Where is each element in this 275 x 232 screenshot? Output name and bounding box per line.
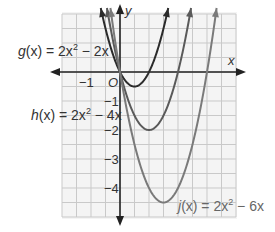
label-h-function: h(x) = 2x2 − 4x xyxy=(31,107,122,123)
y-tick-neg1: −1 xyxy=(104,94,119,109)
h-name: h xyxy=(31,107,39,123)
x-axis-right-arrow-icon xyxy=(236,68,246,76)
y-tick-neg2: −2 xyxy=(104,123,119,138)
x-axis-left-arrow-icon xyxy=(50,68,60,76)
g-suffix: − 2x xyxy=(78,43,109,59)
y-axis-up-arrow-icon xyxy=(116,4,124,14)
label-g-function: g(x) = 2x2 − 2x xyxy=(18,43,109,59)
h-arg: (x) = 2x xyxy=(39,107,86,123)
j-arg: (x) = 2x xyxy=(181,198,228,214)
x-tick-neg1: −1 xyxy=(79,75,94,90)
g-arg: (x) = 2x xyxy=(26,43,73,59)
g-name: g xyxy=(18,43,26,59)
label-j-function: j(x) = 2x2 − 6x xyxy=(178,198,264,214)
y-tick-neg4: −4 xyxy=(104,181,119,196)
j-suffix: − 6x xyxy=(233,198,264,214)
y-axis-down-arrow-icon xyxy=(116,216,124,226)
x-axis-label: x xyxy=(228,53,235,68)
y-axis-label: y xyxy=(125,3,132,18)
h-suffix: − 4x xyxy=(91,107,122,123)
origin-label: O xyxy=(108,75,118,90)
y-tick-neg3: −3 xyxy=(104,152,119,167)
